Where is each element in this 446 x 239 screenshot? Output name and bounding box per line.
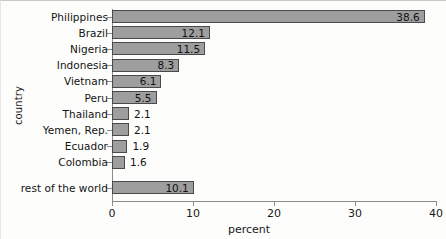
bar-value-label: 10.1 xyxy=(165,182,188,194)
bar-value-label: 2.1 xyxy=(134,108,151,120)
bar-value-label: 1.6 xyxy=(130,156,147,168)
x-tick-mark xyxy=(112,201,113,206)
bar-value-label: 2.1 xyxy=(134,124,151,136)
category-label: Philippines xyxy=(51,11,108,23)
bar-value-label: 38.6 xyxy=(396,11,419,23)
bar xyxy=(112,10,425,23)
x-tick-mark xyxy=(436,201,437,206)
x-tick-label: 20 xyxy=(267,207,281,220)
x-axis-title-text: percent xyxy=(228,223,270,236)
bar xyxy=(112,156,125,169)
x-tick-label: 40 xyxy=(429,207,443,220)
category-label: Colombia xyxy=(58,156,108,168)
bar-value-label: 1.9 xyxy=(132,140,149,152)
bar-value-label: 8.3 xyxy=(158,59,175,71)
category-label: Nigeria xyxy=(70,43,108,55)
bar-chart: country 010203040 PhilippinesBrazilNiger… xyxy=(0,0,446,239)
bar-value-label: 6.1 xyxy=(140,75,157,87)
x-tick-mark xyxy=(193,201,194,206)
bar-value-label: 5.5 xyxy=(135,92,152,104)
x-tick-mark xyxy=(274,201,275,206)
category-label: Peru xyxy=(84,92,108,104)
bar-value-label: 12.1 xyxy=(182,27,205,39)
x-tick-mark xyxy=(355,201,356,206)
category-label: Brazil xyxy=(78,27,108,39)
bar-value-label: 11.5 xyxy=(177,43,200,55)
bar xyxy=(112,123,129,136)
category-label: Indonesia xyxy=(57,59,108,71)
bar xyxy=(112,140,127,153)
x-axis-title: percent xyxy=(1,223,446,236)
category-label: Ecuador xyxy=(65,140,108,152)
category-label: Thailand xyxy=(63,108,109,120)
category-label: Vietnam xyxy=(64,75,108,87)
x-tick-label: 30 xyxy=(348,207,362,220)
x-tick-label: 0 xyxy=(109,207,116,220)
category-label: rest of the world xyxy=(21,182,108,194)
plot-area: 010203040 PhilippinesBrazilNigeriaIndone… xyxy=(1,1,446,239)
x-tick-label: 10 xyxy=(186,207,200,220)
category-label: Yemen, Rep. xyxy=(43,124,108,136)
bar xyxy=(112,107,129,120)
